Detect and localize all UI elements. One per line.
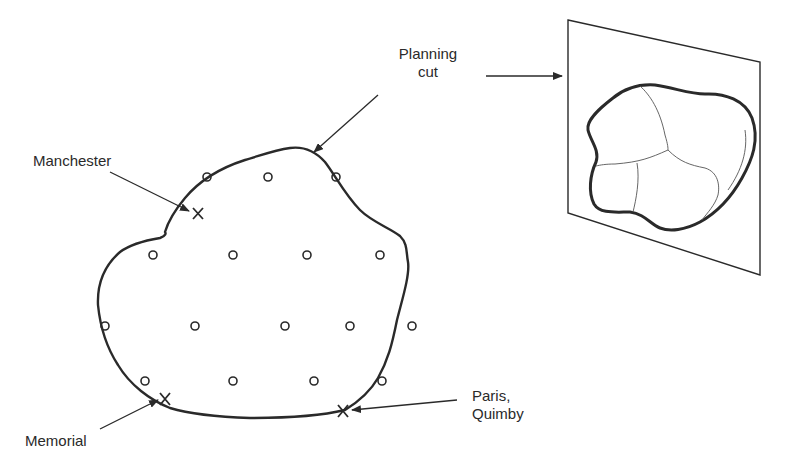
inset-plane xyxy=(568,20,760,275)
label-paris-quimby: Paris, Quimby xyxy=(472,387,524,423)
diagram-canvas: Manchester Planning cut Memorial Paris, … xyxy=(0,0,787,476)
arrow-planning-cut-to-shape xyxy=(314,95,378,152)
label-paris-line2: Quimby xyxy=(472,405,524,423)
label-paris-line1: Paris, xyxy=(472,387,524,405)
selected-markers xyxy=(160,208,348,417)
arrow-paris-quimby xyxy=(352,400,457,410)
site-markers xyxy=(101,173,416,385)
arrow-manchester xyxy=(110,172,189,211)
label-planning-cut: Planning cut xyxy=(378,45,478,81)
x-marker-memorial xyxy=(160,393,170,405)
label-planning-cut-line1: Planning xyxy=(378,45,478,63)
label-manchester: Manchester xyxy=(33,152,111,170)
label-planning-cut-line2: cut xyxy=(378,63,478,81)
label-memorial: Memorial xyxy=(25,432,87,450)
arrow-memorial xyxy=(100,400,158,429)
x-marker-manchester xyxy=(193,208,203,219)
